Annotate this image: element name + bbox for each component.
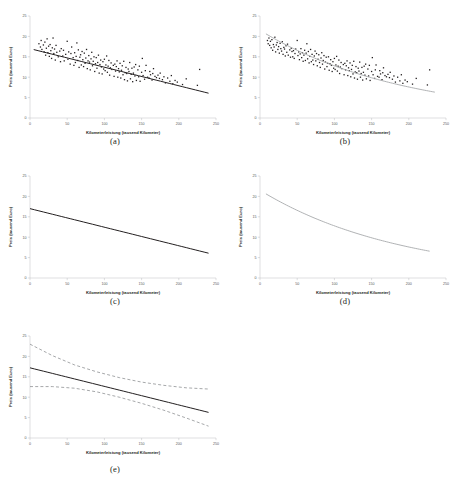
data-point (383, 67, 384, 68)
panel-b: 0510152025050100150200250Kilometerleistu… (230, 0, 460, 160)
data-point (110, 62, 111, 63)
y-tick-label: 20 (22, 355, 26, 359)
series-line-1 (30, 344, 209, 389)
data-point (323, 60, 324, 61)
data-point (131, 68, 132, 69)
data-point (286, 52, 287, 53)
data-point (120, 77, 121, 78)
data-point (380, 73, 381, 74)
data-point (339, 73, 340, 74)
data-point (361, 67, 362, 68)
data-point (316, 53, 317, 54)
data-point (113, 76, 114, 77)
data-point (346, 60, 347, 61)
panel-caption-a: (a) (0, 136, 230, 146)
data-point (315, 60, 316, 61)
data-point (150, 74, 151, 75)
data-point (319, 62, 320, 63)
y-tick-label: 15 (252, 215, 256, 219)
data-point (145, 65, 146, 66)
data-point (93, 56, 94, 57)
data-point (171, 75, 172, 76)
data-point (338, 59, 339, 60)
y-tick-label: 10 (252, 76, 256, 80)
y-tick-label: 20 (22, 195, 26, 199)
panel-caption-c: (c) (0, 296, 230, 306)
data-point (55, 59, 56, 60)
data-point (314, 55, 315, 56)
axes: 0510152025050100150200250Kilometerleistu… (238, 174, 449, 295)
data-point (122, 65, 123, 66)
data-point (347, 75, 348, 76)
data-point (74, 52, 75, 53)
data-point (133, 72, 134, 73)
y-tick-label: 25 (252, 174, 256, 178)
data-point (135, 64, 136, 65)
x-tick-label: 200 (406, 122, 412, 126)
data-point (149, 71, 150, 72)
data-point (169, 81, 170, 82)
data-point (130, 78, 131, 79)
y-tick-label: 20 (252, 195, 256, 199)
data-point (142, 75, 143, 76)
data-point (71, 46, 72, 47)
scatter-points (267, 37, 430, 86)
data-point (337, 70, 338, 71)
data-point (197, 85, 198, 86)
y-axis-title: Preis (tausend Euro) (238, 46, 243, 87)
y-tick-label: 25 (252, 14, 256, 18)
data-point (98, 55, 99, 56)
data-point (174, 80, 175, 81)
data-point (70, 53, 71, 54)
data-point (128, 71, 129, 72)
x-tick-label: 150 (139, 282, 145, 286)
data-point (280, 48, 281, 49)
data-point (51, 58, 52, 59)
data-point (378, 77, 379, 78)
data-point (304, 50, 305, 51)
data-point (156, 77, 157, 78)
data-point (382, 72, 383, 73)
data-point (100, 59, 101, 60)
x-tick-label: 50 (295, 122, 299, 126)
data-point (134, 66, 135, 67)
data-point (137, 69, 138, 70)
data-point (365, 63, 366, 64)
data-point (41, 49, 42, 50)
data-point (404, 79, 405, 80)
data-point (317, 65, 318, 66)
data-point (80, 54, 81, 55)
data-point (38, 43, 39, 44)
data-point (67, 41, 68, 42)
y-tick-label: 5 (24, 416, 26, 420)
data-point (300, 53, 301, 54)
data-point (113, 65, 114, 66)
data-point (311, 54, 312, 55)
data-point (142, 58, 143, 59)
data-point (379, 70, 380, 71)
data-point (322, 63, 323, 64)
data-point (182, 84, 183, 85)
data-point (125, 67, 126, 68)
data-point (103, 68, 104, 69)
data-point (275, 51, 276, 52)
x-tick-label: 0 (29, 442, 31, 446)
data-point (397, 77, 398, 78)
data-point (160, 72, 161, 73)
data-point (307, 58, 308, 59)
data-point (377, 76, 378, 77)
y-tick-label: 5 (24, 256, 26, 260)
data-point (41, 40, 42, 41)
data-point (354, 77, 355, 78)
data-point (279, 52, 280, 53)
data-point (401, 74, 402, 75)
data-point (360, 77, 361, 78)
data-point (278, 46, 279, 47)
data-point (353, 61, 354, 62)
data-point (293, 50, 294, 51)
data-point (81, 64, 82, 65)
data-point (79, 57, 80, 58)
y-axis-title: Preis (tausend Euro) (8, 46, 13, 87)
data-point (270, 41, 271, 42)
x-tick-label: 200 (176, 282, 182, 286)
